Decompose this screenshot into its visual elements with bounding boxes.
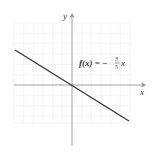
function-annotation: f(x) = − 3 5 x — [79, 56, 125, 70]
axes — [14, 15, 145, 146]
y-axis-label: y — [62, 11, 67, 21]
fraction-denominator: 5 — [115, 64, 118, 70]
fraction-numerator: 3 — [114, 56, 118, 62]
function-graph: x y f(x) = − 3 5 x — [0, 0, 153, 152]
svg-text:f(x) = −: f(x) = − — [79, 58, 108, 68]
annotation-variable: x — [120, 58, 125, 68]
annotation-lhs: f(x) = − — [79, 58, 108, 68]
x-axis-label: x — [139, 87, 144, 97]
